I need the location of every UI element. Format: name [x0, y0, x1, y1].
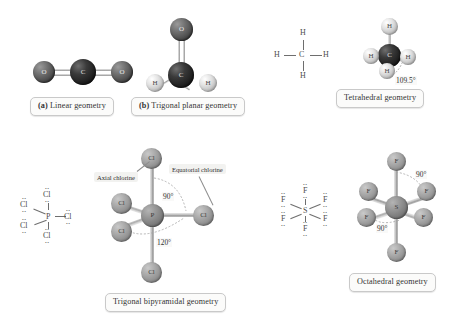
atom-label-hydrogen-right-ch4: H — [405, 53, 410, 61]
caption-text-trigonal-bipyramidal: Trigonal bipyramidal geometry — [113, 297, 218, 306]
atom-label-chlorine-equatorial-upleft: Cl — [118, 199, 125, 207]
lewis-chlorine-top-pcl5: Cl — [43, 190, 51, 199]
angle-label-oct-bottom: 90° — [376, 224, 388, 233]
caption-linear: (a) Linear geometry — [30, 97, 114, 116]
lewis-fluorine-upright-sf6: F — [323, 195, 327, 204]
leader-equatorial — [199, 176, 214, 205]
atom-label-fluorine-upleft: F — [367, 187, 371, 195]
atom-oxygen-left: O — [33, 61, 55, 83]
atom-label-carbon-center-b: C — [179, 71, 184, 79]
lewis-chlorine-downleft-pcl5: Cl — [20, 221, 28, 230]
atom-fluorine-downright: F — [414, 208, 433, 227]
lewis-chlorine-bottom-pcl5: Cl — [43, 231, 51, 240]
lewis-chlorine-right-pcl5: Cl — [64, 212, 72, 221]
atom-sulfur-center: S — [385, 196, 408, 219]
caption-trigonal-bipyramidal: Trigonal bipyramidal geometry — [105, 293, 226, 312]
atom-label-hydrogen-left: H — [152, 79, 157, 87]
atom-carbon-center-b: C — [168, 62, 194, 88]
lewis-structure-pcl5: •• Cl •• •• Cl •• P •• Cl •• •• Cl •• ••… — [18, 186, 80, 246]
lewis-bond-left — [284, 55, 296, 56]
lewis-bond-pcl5-downleft — [34, 220, 47, 225]
atom-fluorine-upright: F — [417, 182, 436, 201]
atom-label-fluorine-downright: F — [422, 213, 426, 221]
lewis-bond-sf6-downleft — [290, 214, 302, 219]
caption-text-linear: Linear geometry — [50, 101, 106, 110]
caption-prefix-trigonal-planar: (b) — [139, 101, 149, 110]
lewis-bond-sf6-top — [305, 199, 306, 205]
atom-hydrogen-left: H — [146, 74, 164, 92]
lewis-chlorine-upleft-pcl5: Cl — [20, 200, 28, 209]
caption-tetrahedral: Tetrahedral geometry — [336, 89, 424, 108]
lewis-dots-pcl5-right-b: •• — [66, 221, 70, 226]
caption-text-octahedral: Octahedral geometry — [357, 277, 428, 286]
atom-fluorine-bottom: F — [387, 243, 406, 262]
angle-label-tetrahedral: 109.5° — [395, 76, 417, 85]
lewis-dots-sf6-upright-b: •• — [323, 204, 327, 209]
lewis-carbon-center: C — [299, 50, 304, 59]
atom-label-sulfur-center: S — [395, 203, 399, 211]
lewis-dots-pcl5-upleft-b: •• — [22, 209, 26, 214]
atom-label-fluorine-upright: F — [425, 187, 429, 195]
lewis-dots-sf6-bottom-b: •• — [303, 233, 307, 238]
atom-hydrogen-left-ch4: H — [363, 48, 379, 64]
caption-text-trigonal-planar: Trigonal planar geometry — [151, 101, 237, 110]
lewis-bond-top — [303, 40, 304, 50]
atom-label-oxygen-left: O — [41, 68, 46, 76]
lewis-dots-pcl5-bottom-b: •• — [45, 240, 49, 245]
atom-label-hydrogen-bottom-ch4: H — [384, 67, 389, 75]
lewis-bond-right — [310, 55, 322, 56]
lewis-fluorine-upleft-sf6: F — [281, 195, 285, 204]
atom-fluorine-upleft: F — [359, 182, 378, 201]
lewis-dots-sf6-downright-b: •• — [323, 223, 327, 228]
angle-label-oct-top: 90° — [415, 170, 427, 179]
atom-label-oxygen-right: O — [119, 68, 124, 76]
atom-label-phosphorus-center: P — [151, 211, 155, 219]
atom-fluorine-top: F — [387, 152, 406, 171]
lewis-dots-pcl5-downleft-b: •• — [22, 230, 26, 235]
lewis-bond-pcl5-top — [48, 203, 49, 210]
lewis-hydrogen-top: H — [300, 28, 306, 37]
angle-label-tbp-120: 120° — [156, 238, 172, 247]
lewis-bond-sf6-upright — [309, 204, 321, 209]
atom-carbon-center: C — [70, 59, 96, 85]
atom-chlorine-equatorial-right: Cl — [193, 205, 214, 226]
caption-prefix-linear: (a) — [38, 101, 48, 110]
lewis-dots-sf6-upleft-b: •• — [281, 204, 285, 209]
lewis-bond-sf6-upleft — [290, 204, 302, 209]
atom-hydrogen-top-ch4: H — [381, 18, 398, 35]
lewis-dots-sf6-downleft-b: •• — [281, 223, 285, 228]
atom-hydrogen-right-ch4: H — [400, 49, 416, 65]
lewis-structure-methane: H H C H H — [272, 28, 334, 80]
atom-chlorine-equatorial-upleft: Cl — [111, 193, 132, 214]
lewis-fluorine-top-sf6: F — [303, 186, 307, 195]
atom-label-hydrogen-right: H — [205, 79, 210, 87]
atom-label-carbon-center: C — [81, 68, 86, 76]
atom-label-hydrogen-left-ch4: H — [368, 52, 373, 60]
atom-label-chlorine-axial-bottom: Cl — [148, 268, 155, 276]
atom-oxygen-top: O — [170, 18, 193, 41]
lewis-hydrogen-right: H — [323, 50, 329, 59]
annotation-axial-chlorine: Axial chlorine — [94, 172, 138, 182]
atom-chlorine-axial-bottom: Cl — [141, 262, 162, 283]
caption-text-tetrahedral: Tetrahedral geometry — [344, 93, 416, 102]
atom-label-chlorine-equatorial-right: Cl — [200, 211, 207, 219]
atom-fluorine-downleft: F — [357, 208, 376, 227]
lewis-bond-pcl5-upleft — [33, 209, 45, 215]
atom-oxygen-right: O — [111, 61, 133, 83]
lewis-structure-sf6: •• F •• •• F •• •• F •• S •• F •• •• F •… — [277, 182, 335, 238]
atom-label-chlorine-equatorial-downleft: Cl — [118, 227, 125, 235]
atom-label-fluorine-top: F — [395, 157, 399, 165]
lewis-bond-bottom — [303, 61, 304, 71]
lewis-bond-sf6-downright — [309, 214, 321, 219]
lewis-hydrogen-bottom: H — [300, 71, 306, 80]
lewis-fluorine-downleft-sf6: F — [281, 214, 285, 223]
lewis-fluorine-bottom-sf6: F — [303, 224, 307, 233]
atom-chlorine-equatorial-downleft: Cl — [111, 221, 132, 242]
angle-label-tbp-90: 90° — [162, 192, 174, 201]
caption-octahedral: Octahedral geometry — [349, 273, 436, 292]
atom-phosphorus-center: P — [141, 204, 164, 227]
atom-label-hydrogen-top-ch4: H — [387, 22, 392, 30]
lewis-fluorine-downright-sf6: F — [323, 214, 327, 223]
lewis-hydrogen-left: H — [274, 50, 280, 59]
atom-hydrogen-right: H — [199, 74, 217, 92]
